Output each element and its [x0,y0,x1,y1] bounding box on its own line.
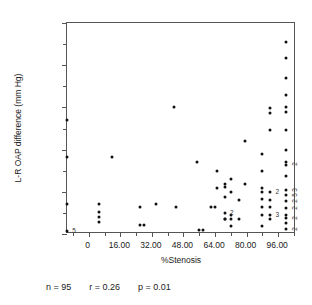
y-axis-tick [62,107,67,108]
data-point [196,160,199,163]
y-axis-minor-tick [63,213,67,214]
overlap-count-label: 2 [230,210,234,217]
data-point [97,215,100,218]
x-axis-tick-label: 0 [85,240,90,250]
data-point [285,222,288,225]
data-point [285,174,288,177]
y-axis-title: L-R OAP difference (mm Hg) [13,74,23,183]
data-point [261,152,264,155]
x-axis-tick [89,232,90,237]
overlap-count-label: 2 [292,199,299,203]
y-axis-minor-tick [63,86,67,87]
data-point [261,197,264,200]
overlap-count-label: 3 [276,211,280,218]
data-point [223,183,226,186]
data-point [261,224,264,227]
data-point [285,227,288,230]
data-point [210,205,213,208]
y-axis-tick [62,65,67,66]
data-point [243,139,246,142]
overlap-count-label: 2 [292,227,299,231]
data-point [216,169,219,172]
x-axis-minor-tick [231,232,232,236]
x-axis-minor-tick [73,232,74,236]
y-axis-minor-tick [63,171,67,172]
y-axis-minor-tick [63,44,67,45]
data-point [229,217,232,220]
data-point [172,106,175,109]
data-point [142,224,145,227]
data-point [269,129,272,132]
data-point [285,206,288,209]
data-point [285,94,288,97]
overlap-count-label: 5 [292,194,299,198]
y-axis-tick [62,192,67,193]
data-point [66,230,69,233]
data-point [223,196,226,199]
data-point [154,203,157,206]
data-point [285,217,288,220]
scatter-plot-figure: L-R OAP difference (mm Hg) 012.0024.0036… [0,0,312,305]
plot-area: 52232352222 [66,22,295,233]
data-point [269,111,272,114]
data-point [285,106,288,109]
overlap-count-label: 3 [292,188,299,192]
data-point [269,107,272,110]
x-axis-tick [152,232,153,237]
data-point [139,224,142,227]
overlap-count-label: 2 [292,206,299,210]
data-point [97,220,100,223]
x-axis-title: %Stenosis [161,255,201,265]
correlation-label: r = 0.26 [89,282,120,292]
data-point [111,156,114,159]
data-point [223,217,226,220]
data-point [285,164,288,167]
x-axis-tick-label: 64.00 [203,240,224,250]
data-point [285,57,288,60]
data-point [261,169,264,172]
x-axis-minor-tick [294,232,295,236]
x-axis-tick [247,232,248,237]
y-axis-tick [62,234,67,235]
y-axis-tick [62,23,67,24]
overlap-count-label: 2 [292,216,299,220]
data-point [214,205,217,208]
data-point [237,217,240,220]
x-axis-minor-tick [105,232,106,236]
data-point [198,228,201,231]
data-point [285,41,288,44]
overlap-count-label: 2 [292,162,299,166]
x-axis-tick-label: 16.00 [109,240,130,250]
data-point [229,190,232,193]
data-point [285,194,288,197]
x-axis-tick [278,232,279,237]
data-point [269,198,272,201]
x-axis-tick-label: 96.00 [267,240,288,250]
data-point [269,205,272,208]
data-point [202,228,205,231]
overlap-count-label: 2 [276,189,280,196]
data-point [285,76,288,79]
data-point [261,190,264,193]
data-point [139,205,142,208]
x-axis-minor-tick [168,232,169,236]
data-point [285,189,288,192]
x-axis-tick [183,232,184,237]
y-axis-tick [62,150,67,151]
data-point [229,224,232,227]
data-point [174,205,177,208]
data-points-layer: 52232352222 [67,23,294,232]
data-point [229,178,232,181]
data-point [269,213,272,216]
x-axis-minor-tick [262,232,263,236]
data-point [261,205,264,208]
statistics-line: n = 95r = 0.26p = 0.01 [46,282,171,292]
data-point [269,190,272,193]
data-point [66,156,69,159]
x-axis-tick-label: 48.00 [172,240,193,250]
x-axis-tick [215,232,216,237]
y-axis-minor-tick [63,129,67,130]
x-axis-minor-tick [199,232,200,236]
data-point [261,186,264,189]
data-point [237,198,240,201]
